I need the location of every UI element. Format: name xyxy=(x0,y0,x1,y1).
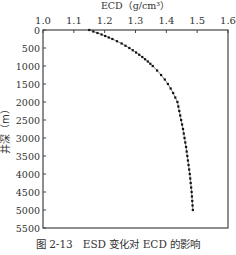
data-point xyxy=(183,137,185,139)
data-point xyxy=(138,54,140,56)
x-axis-title: ECD（g/cm³） xyxy=(101,0,170,11)
y-tick-label: 3000 xyxy=(16,133,40,144)
x-tick-label: 1.3 xyxy=(128,15,144,26)
data-point xyxy=(192,209,194,211)
y-tick-label: 2500 xyxy=(16,115,40,126)
plot-area: ECD（g/cm³）1.01.11.21.31.41.51.6050010001… xyxy=(0,0,236,232)
data-point xyxy=(124,45,126,47)
y-tick-label: 4000 xyxy=(16,169,40,180)
data-point xyxy=(141,56,143,58)
data-point xyxy=(186,155,188,157)
data-point xyxy=(191,204,193,206)
data-point xyxy=(184,141,186,143)
data-point xyxy=(191,195,193,197)
data-point xyxy=(191,191,193,193)
data-point xyxy=(100,33,102,35)
data-point xyxy=(160,74,162,76)
figure-caption: 图 2-13 ESD 变化对 ECD 的影响 xyxy=(0,236,236,251)
data-point xyxy=(92,30,94,32)
data-point xyxy=(144,58,146,60)
data-point xyxy=(108,36,110,38)
data-point xyxy=(191,200,193,202)
data-point xyxy=(104,35,106,37)
data-point xyxy=(180,119,182,121)
data-point xyxy=(128,47,130,49)
data-point xyxy=(183,132,185,134)
data-point xyxy=(185,146,187,148)
data-point xyxy=(187,164,189,166)
data-point xyxy=(167,83,169,85)
data-point xyxy=(189,177,191,179)
ecd-depth-chart: ECD（g/cm³）1.01.11.21.31.41.51.6050010001… xyxy=(0,0,236,232)
y-tick-label: 1500 xyxy=(16,79,40,90)
data-point xyxy=(176,101,178,103)
data-point xyxy=(96,32,98,34)
y-tick-label: 5000 xyxy=(16,205,40,216)
y-tick-label: 4500 xyxy=(16,187,40,198)
data-point xyxy=(132,49,134,51)
series-line xyxy=(89,30,193,210)
y-tick-label: 2000 xyxy=(16,97,40,108)
data-point xyxy=(186,150,188,152)
data-point xyxy=(181,123,183,125)
data-point xyxy=(182,128,184,130)
y-tick-label: 0 xyxy=(34,25,40,36)
data-point xyxy=(170,87,172,89)
x-tick-label: 1.4 xyxy=(158,15,174,26)
data-point xyxy=(147,60,149,62)
data-point xyxy=(135,51,137,53)
data-point xyxy=(177,105,179,107)
y-tick-label: 1000 xyxy=(16,61,40,72)
plot-frame xyxy=(43,30,228,228)
data-point xyxy=(187,159,189,161)
data-point xyxy=(164,78,166,80)
data-point xyxy=(179,114,181,116)
x-tick-label: 1.1 xyxy=(66,15,82,26)
data-point xyxy=(88,29,90,31)
x-tick-label: 1.5 xyxy=(189,15,205,26)
data-point xyxy=(178,110,180,112)
data-point xyxy=(190,186,192,188)
data-point xyxy=(152,65,154,67)
data-point xyxy=(121,42,123,44)
data-point xyxy=(190,182,192,184)
data-point xyxy=(188,168,190,170)
y-axis-title: 井深（m） xyxy=(0,104,11,154)
data-point xyxy=(111,38,113,40)
x-tick-label: 1.2 xyxy=(97,15,113,26)
data-point xyxy=(156,69,158,71)
y-tick-label: 500 xyxy=(22,43,40,54)
y-tick-label: 5500 xyxy=(16,223,40,233)
data-point xyxy=(189,173,191,175)
data-point xyxy=(172,92,174,94)
x-tick-label: 1.6 xyxy=(220,15,236,26)
data-point xyxy=(149,63,151,65)
data-point xyxy=(174,96,176,98)
y-tick-label: 3500 xyxy=(16,151,40,162)
data-point xyxy=(116,40,118,42)
